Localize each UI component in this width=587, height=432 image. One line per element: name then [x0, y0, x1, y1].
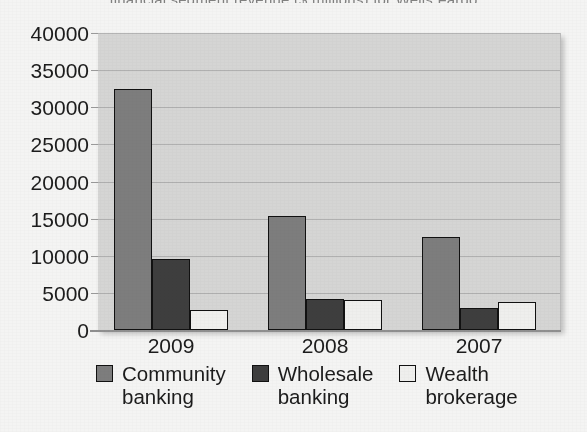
y-axis-tick-label: 40000 — [0, 23, 89, 44]
x-axis-baseline — [90, 330, 561, 332]
gridline — [98, 144, 560, 145]
gridline — [98, 256, 560, 257]
legend-label: Community banking — [122, 362, 226, 409]
legend-item: Wholesale banking — [252, 362, 374, 409]
bar — [460, 308, 498, 330]
y-axis-tick-label: 25000 — [0, 134, 89, 155]
y-axis-tick-label: 5000 — [0, 282, 89, 303]
y-axis-tick-label: 35000 — [0, 60, 89, 81]
legend-item: Wealth brokerage — [399, 362, 517, 409]
x-axis-tick-label: 2007 — [456, 334, 503, 358]
legend-item: Community banking — [96, 362, 226, 409]
y-axis-tick-label: 20000 — [0, 171, 89, 192]
legend-label: Wealth brokerage — [425, 362, 517, 409]
x-axis-tick-label: 2009 — [148, 334, 195, 358]
y-axis-tick-label: 10000 — [0, 245, 89, 266]
gridline — [98, 219, 560, 220]
y-axis-tick-mark — [91, 70, 98, 71]
bar — [422, 237, 460, 330]
bar — [152, 259, 190, 330]
plot-top-border — [98, 33, 560, 34]
y-axis-tick-label: 0 — [0, 320, 89, 341]
y-axis-tick-mark — [91, 33, 98, 34]
legend-swatch-icon — [96, 365, 113, 382]
y-axis-tick-mark — [91, 293, 98, 294]
bar — [498, 302, 536, 330]
legend-label: Wholesale banking — [278, 362, 374, 409]
gridline — [98, 70, 560, 71]
y-axis-tick-mark — [91, 219, 98, 220]
plot-area — [98, 33, 561, 330]
y-axis-tick-mark — [91, 144, 98, 145]
scanned-page: financial segment revenue ($ millions) f… — [0, 0, 587, 432]
gridline — [98, 182, 560, 183]
bar — [114, 89, 152, 330]
y-axis-tick-label: 15000 — [0, 208, 89, 229]
bar — [190, 310, 228, 330]
gridline — [98, 107, 560, 108]
y-axis-tick-mark — [91, 107, 98, 108]
y-axis-tick-mark — [91, 182, 98, 183]
bar — [306, 299, 344, 330]
chart-legend: Community bankingWholesale bankingWealth… — [96, 362, 518, 409]
grouped-bar-chart: 4000035000300002500020000150001000050000… — [0, 0, 587, 432]
x-axis-tick-label: 2008 — [302, 334, 349, 358]
bar — [344, 300, 382, 330]
legend-swatch-icon — [399, 365, 416, 382]
bar — [268, 216, 306, 330]
y-axis-tick-label: 30000 — [0, 97, 89, 118]
y-axis-tick-mark — [91, 256, 98, 257]
legend-swatch-icon — [252, 365, 269, 382]
